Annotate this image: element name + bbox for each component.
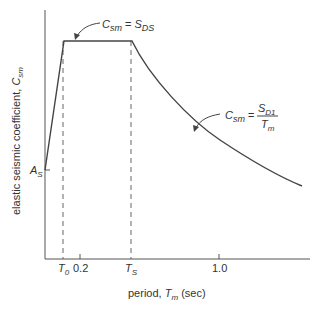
spectrum-chart: Csm = SDS Csm = SD1 Tm AS T0 0.2 TS 1.0 … (0, 0, 319, 313)
y-axis-label: elastic seismic coefficient, Csm (10, 67, 25, 215)
annotation-descending-lhs: Csm = (225, 109, 254, 124)
x-tick-label-1-0: 1.0 (212, 262, 227, 274)
annotation-descending-denominator: Tm (261, 118, 275, 133)
annotation-arrow-plateau (77, 23, 100, 36)
x-tick-label-ts: TS (125, 262, 138, 277)
y-tick-label-as: AS (29, 164, 43, 179)
annotation-plateau: Csm = SDS (102, 18, 154, 33)
arrowhead-icon (193, 125, 199, 132)
x-axis-label: period, Tm (sec) (128, 287, 206, 302)
x-tick-label-t0: T0 (58, 262, 70, 277)
x-tick-label-0-2: 0.2 (73, 262, 88, 274)
annotation-arrow-descending (196, 114, 220, 128)
annotation-descending-numerator: SD1 (258, 102, 276, 117)
arrowhead-icon (74, 33, 80, 40)
